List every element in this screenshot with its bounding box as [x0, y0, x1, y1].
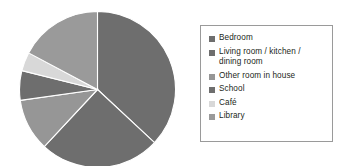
legend-item-label: Café [219, 98, 237, 109]
legend-item-label: Library [219, 111, 245, 122]
legend-item-label: Bedroom [219, 33, 253, 44]
legend-item[interactable]: Library [209, 111, 328, 122]
legend-item[interactable]: Café [209, 98, 328, 109]
pie-chart-svg [19, 11, 176, 166]
legend-item-list: BedroomLiving room / kitchen / dining ro… [209, 33, 328, 125]
legend-swatch-icon [209, 74, 215, 80]
pie-chart-plot-area [19, 11, 176, 166]
legend-item[interactable]: Other room in house [209, 71, 328, 82]
legend-item[interactable]: Bedroom [209, 33, 328, 44]
legend-swatch-icon [209, 50, 215, 56]
legend-item-label: Other room in house [219, 71, 295, 82]
legend-item[interactable]: School [209, 84, 328, 95]
legend-item-label: School [219, 84, 245, 95]
legend-item-label: Living room / kitchen / dining room [219, 47, 301, 68]
legend-swatch-icon [209, 87, 215, 93]
pie-chart-figure: BedroomLiving room / kitchen / dining ro… [0, 0, 342, 166]
legend-swatch-icon [209, 101, 215, 107]
chart-legend: BedroomLiving room / kitchen / dining ro… [200, 25, 333, 142]
legend-swatch-icon [209, 114, 215, 120]
legend-item[interactable]: Living room / kitchen / dining room [209, 47, 328, 68]
pie-slice-group [20, 12, 176, 167]
legend-swatch-icon [209, 36, 215, 42]
